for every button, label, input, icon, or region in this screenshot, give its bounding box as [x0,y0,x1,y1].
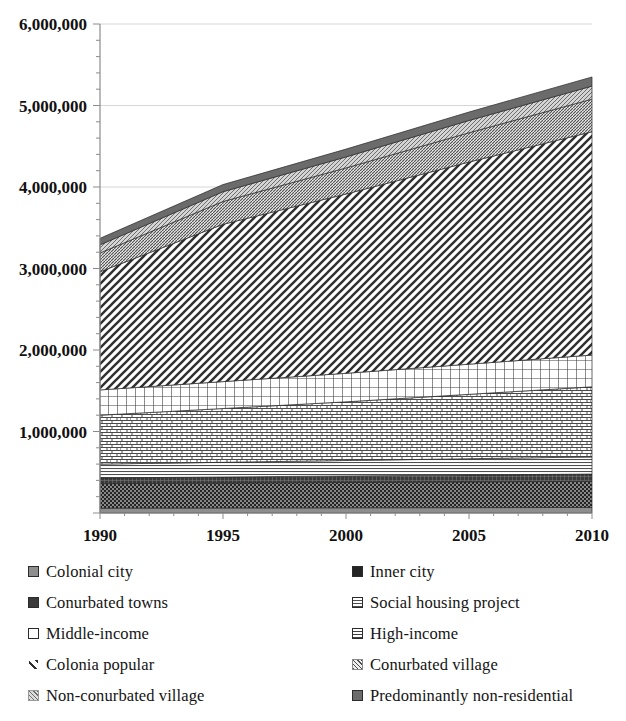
y-axis-tick-label: 1,000,000 [19,423,87,442]
legend-item-social-housing-project: Social housing project [352,587,626,618]
legend-label: Middle-income [46,624,149,644]
legend-column-right: Inner city Social housing project High-i… [352,556,626,711]
legend-column-left: Colonial city Conurbated towns Middle-in… [28,556,328,711]
legend-item-colonial-city: Colonial city [28,556,328,587]
legend-swatch-non-conurbated-village [28,690,39,701]
legend-swatch-predominantly-non-residential [352,690,363,701]
y-axis-tick-label: 4,000,000 [19,178,87,197]
x-axis-tick-label: 1995 [206,526,240,545]
y-axis-tick-label: 3,000,000 [19,260,87,279]
legend-swatch-conurbated-village [352,659,363,670]
legend-label: Colonial city [46,562,133,582]
y-axis-tick-label: 6,000,000 [19,15,87,34]
y-axis-tick-labels: 1,000,0002,000,0003,000,0004,000,0005,00… [19,15,87,442]
legend-swatch-inner-city [352,566,363,577]
x-axis-tick-label: 2010 [575,526,609,545]
legend-item-colonia-popular: Colonia popular [28,649,328,680]
legend-swatch-conurbated-towns [28,597,39,608]
legend-label: Inner city [370,562,435,582]
x-axis-tick-label: 2000 [329,526,363,545]
legend-item-predominantly-non-residential: Predominantly non-residential [352,680,626,711]
legend-label: Non-conurbated village [46,686,204,706]
legend-label: Social housing project [370,593,520,613]
area-series-group [100,77,592,513]
stacked-area-chart: 1,000,0002,000,0003,000,0004,000,0005,00… [0,0,626,721]
legend-label: Predominantly non-residential [370,686,573,706]
legend-item-inner-city: Inner city [352,556,626,587]
area-inner-city [100,481,592,508]
legend-label: High-income [370,624,458,644]
y-axis-tick-label: 2,000,000 [19,341,87,360]
x-axis-tick-labels: 19901995200020052010 [83,526,609,545]
legend-item-conurbated-towns: Conurbated towns [28,587,328,618]
legend-item-high-income: High-income [352,618,626,649]
chart-legend: Colonial city Conurbated towns Middle-in… [0,556,626,721]
legend-swatch-social-housing-project [352,597,363,608]
y-axis-tick-label: 5,000,000 [19,97,87,116]
legend-swatch-middle-income [28,628,39,639]
x-axis-tick-label: 1990 [83,526,117,545]
legend-swatch-colonial-city [28,566,39,577]
legend-item-non-conurbated-village: Non-conurbated village [28,680,328,711]
x-axis-tick-label: 2005 [452,526,486,545]
legend-swatch-high-income [352,628,363,639]
legend-label: Conurbated village [370,655,498,675]
legend-label: Colonia popular [46,655,154,675]
legend-item-conurbated-village: Conurbated village [352,649,626,680]
legend-swatch-colonia-popular [28,659,39,670]
legend-item-middle-income: Middle-income [28,618,328,649]
chart-canvas: 1,000,0002,000,0003,000,0004,000,0005,00… [0,0,626,556]
legend-label: Conurbated towns [46,593,168,613]
